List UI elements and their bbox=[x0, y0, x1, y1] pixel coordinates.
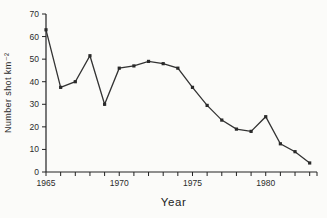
data-point bbox=[44, 28, 47, 31]
x-tick-label: 1970 bbox=[110, 178, 129, 188]
y-tick-label: 30 bbox=[30, 99, 40, 109]
y-tick-label: 0 bbox=[34, 167, 39, 177]
x-tick-label: 1965 bbox=[37, 178, 56, 188]
y-tick-label: 10 bbox=[30, 144, 40, 154]
data-point bbox=[88, 54, 91, 57]
data-point bbox=[249, 130, 252, 133]
x-axis-label: Year bbox=[46, 196, 301, 208]
y-tick-label: 40 bbox=[30, 77, 40, 87]
figure-line-chart: Number shot km⁻² 19651970197519800102030… bbox=[0, 0, 327, 218]
y-tick-label: 50 bbox=[30, 54, 40, 64]
x-tick-label: 1975 bbox=[183, 178, 202, 188]
data-point bbox=[176, 67, 179, 70]
data-line bbox=[46, 30, 310, 163]
y-tick-label: 70 bbox=[30, 9, 40, 19]
data-point bbox=[191, 86, 194, 89]
y-tick-label: 60 bbox=[30, 32, 40, 42]
data-point bbox=[74, 80, 77, 83]
data-point bbox=[206, 104, 209, 107]
line-chart-plot: 1965197019751980010203040506070 bbox=[0, 0, 327, 218]
data-point bbox=[162, 62, 165, 65]
data-point bbox=[308, 161, 311, 164]
y-tick-label: 20 bbox=[30, 122, 40, 132]
data-point bbox=[147, 60, 150, 63]
data-point bbox=[264, 115, 267, 118]
data-point bbox=[279, 142, 282, 145]
data-point bbox=[132, 64, 135, 67]
x-tick-label: 1980 bbox=[256, 178, 275, 188]
data-point bbox=[59, 86, 62, 89]
data-point bbox=[220, 118, 223, 121]
data-point bbox=[235, 128, 238, 131]
data-point bbox=[103, 103, 106, 106]
data-point bbox=[293, 150, 296, 153]
data-point bbox=[118, 67, 121, 70]
